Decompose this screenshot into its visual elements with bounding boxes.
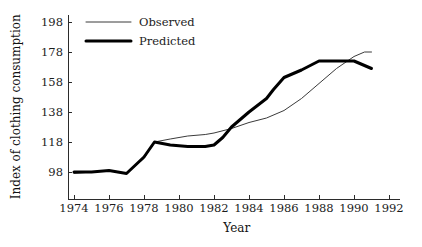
- x-tick-label: 1986: [269, 201, 298, 215]
- x-tick-label: 1988: [304, 201, 333, 215]
- y-axis-title: Index of clothing consumption: [9, 14, 23, 199]
- legend-label-predicted: Predicted: [139, 34, 196, 48]
- y-tick-label: 118: [41, 135, 63, 149]
- legend-label-observed: Observed: [139, 15, 195, 29]
- x-tick-label: 1992: [374, 201, 403, 215]
- y-tick-label: 198: [41, 15, 63, 29]
- y-axis: 98118138158178198: [41, 15, 72, 200]
- x-tick-label: 1984: [234, 201, 263, 215]
- x-tick-label: 1978: [129, 201, 158, 215]
- y-tick-label: 98: [48, 165, 63, 179]
- chart-legend: Observed Predicted: [86, 15, 196, 48]
- x-axis-title: Year: [222, 221, 250, 235]
- line-chart: 98118138158178198 1974197619781980198219…: [0, 0, 422, 247]
- x-tick-label: 1990: [339, 201, 368, 215]
- x-tick-label: 1976: [94, 201, 123, 215]
- x-axis: 1974197619781980198219841986198819901992: [59, 195, 403, 215]
- y-tick-label: 138: [41, 105, 63, 119]
- data-series-group: [74, 52, 372, 174]
- x-tick-label: 1974: [59, 201, 88, 215]
- series-line-observed: [74, 52, 372, 174]
- x-tick-label: 1982: [199, 201, 228, 215]
- y-tick-label: 158: [41, 75, 63, 89]
- y-tick-label: 178: [41, 45, 63, 59]
- chart-container: 98118138158178198 1974197619781980198219…: [0, 0, 422, 247]
- y-axis-ticks: 98118138158178198: [41, 15, 72, 179]
- x-axis-ticks: 1974197619781980198219841986198819901992: [59, 195, 403, 215]
- series-line-predicted: [74, 61, 372, 174]
- x-tick-label: 1980: [164, 201, 193, 215]
